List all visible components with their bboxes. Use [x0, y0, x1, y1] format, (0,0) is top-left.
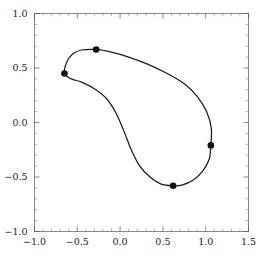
spline-curve — [64, 49, 211, 186]
y-axis-ticks — [35, 14, 249, 232]
y-tick-label: 1.0 — [12, 8, 27, 19]
y-tick-label: −0.5 — [4, 171, 27, 182]
chart-svg: −1.0−0.50.00.51.01.5 −1.0−0.50.00.51.0 — [0, 0, 258, 264]
y-axis-tick-labels: −1.0−0.50.00.51.0 — [4, 8, 27, 237]
x-tick-label: 1.0 — [198, 236, 213, 247]
data-point-p2 — [93, 46, 100, 53]
x-tick-label: 0.0 — [113, 236, 128, 247]
plot-container: −1.0−0.50.00.51.01.5 −1.0−0.50.00.51.0 — [0, 0, 258, 264]
y-tick-label: 0.5 — [12, 62, 27, 73]
y-tick-label: −1.0 — [4, 226, 27, 237]
data-point-p1 — [61, 70, 68, 77]
data-point-markers — [61, 46, 214, 189]
x-tick-label: 0.5 — [155, 236, 170, 247]
x-tick-label: −1.0 — [23, 236, 46, 247]
y-tick-label: 0.0 — [12, 117, 27, 128]
plot-frame — [35, 14, 249, 232]
x-tick-label: −0.5 — [66, 236, 89, 247]
data-point-p3 — [208, 142, 215, 149]
data-point-p4 — [170, 182, 177, 189]
x-axis-tick-labels: −1.0−0.50.00.51.01.5 — [23, 236, 256, 247]
x-axis-ticks — [35, 14, 249, 232]
x-tick-label: 1.5 — [241, 236, 256, 247]
